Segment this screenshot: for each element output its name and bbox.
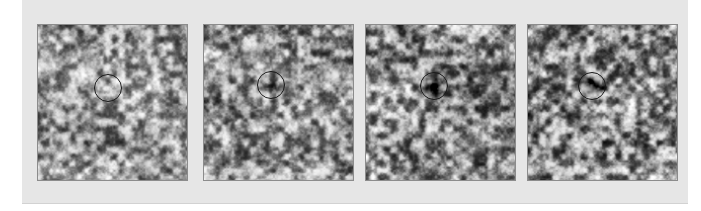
- figure-root: [0, 0, 701, 211]
- granulation-panel-1[interactable]: [37, 24, 188, 181]
- granulation-panel-2[interactable]: [203, 24, 354, 181]
- granulation-image-2: [204, 25, 353, 180]
- granulation-image-4: [528, 25, 677, 180]
- granulation-panel-3[interactable]: [365, 24, 516, 181]
- granulation-image-3: [366, 25, 515, 180]
- granulation-image-1: [38, 25, 187, 180]
- panel-strip: [0, 0, 701, 211]
- granulation-panel-4[interactable]: [527, 24, 678, 181]
